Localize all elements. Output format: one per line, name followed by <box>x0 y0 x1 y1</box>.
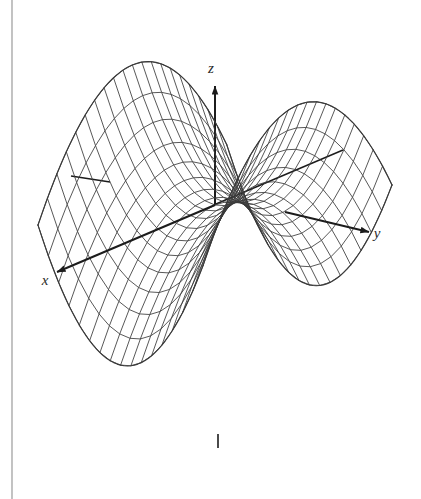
mesh-line <box>38 225 203 366</box>
mesh-line <box>66 152 231 293</box>
mesh-line <box>76 132 241 273</box>
mesh-line <box>104 88 269 229</box>
mesh-line <box>110 197 299 360</box>
mesh-line <box>161 64 326 205</box>
mesh-line <box>90 177 279 340</box>
mesh-line <box>47 198 212 339</box>
figure-canvas: z y x <box>0 0 421 499</box>
surface-plot-svg: z y x <box>0 0 421 499</box>
mesh-line <box>38 225 203 366</box>
mesh-line <box>162 182 351 345</box>
mesh-line <box>69 142 258 305</box>
axis-label-y: y <box>372 225 381 241</box>
mesh-line <box>131 202 320 365</box>
axis-label-z: z <box>207 60 214 76</box>
axis-label-x: x <box>41 272 49 288</box>
mesh-line <box>152 192 341 355</box>
mesh-line <box>151 62 316 203</box>
y-axis <box>285 212 369 232</box>
mesh-line <box>208 110 373 251</box>
mesh-line <box>142 62 307 203</box>
mesh-line <box>172 167 361 330</box>
